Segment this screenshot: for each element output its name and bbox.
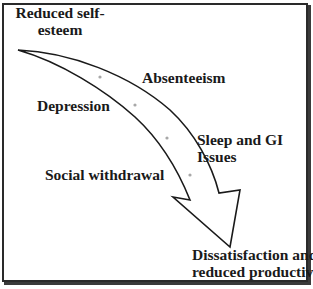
end-label-line-1: Dissatisfaction and <box>192 246 312 263</box>
marker-dot <box>188 173 191 176</box>
marker-dot <box>133 103 136 106</box>
stage-label-line: Social withdrawal <box>45 166 164 183</box>
stage-label-line: Absenteeism <box>142 69 226 86</box>
stage-label-line: Depression <box>37 97 110 114</box>
start-label-line-2: esteem <box>10 21 110 38</box>
stage-label-line: Sleep and GI <box>197 131 283 148</box>
stage-label-social-withdrawal: Social withdrawal <box>45 166 164 183</box>
end-label: Dissatisfaction and reduced productivity <box>192 246 312 280</box>
marker-dot <box>165 136 168 139</box>
stage-label-depression: Depression <box>37 97 110 114</box>
start-label-line-1: Reduced self- <box>10 4 110 21</box>
marker-dot <box>98 75 101 78</box>
start-label: Reduced self- esteem <box>10 4 110 38</box>
stage-label-line: Issues <box>197 148 283 165</box>
stage-label-absenteeism: Absenteeism <box>142 69 226 86</box>
end-label-line-2: reduced productivity <box>192 263 312 280</box>
stage-label-sleep-gi: Sleep and GI Issues <box>197 131 283 165</box>
